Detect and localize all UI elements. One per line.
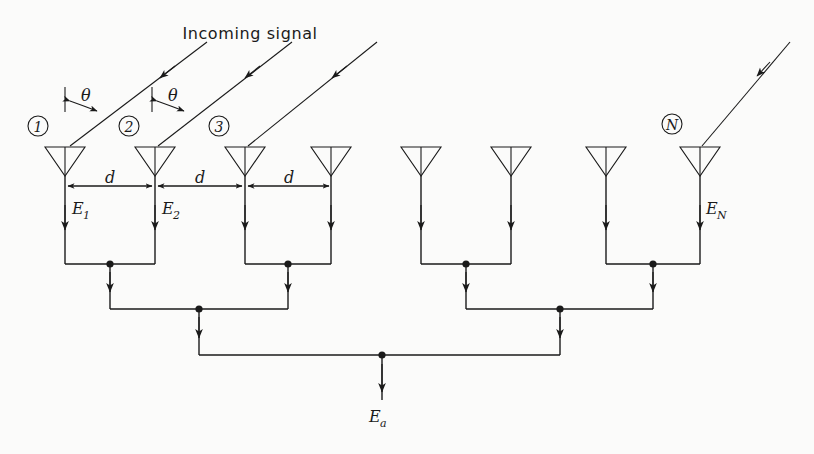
antenna-symbol-2 [135, 147, 175, 176]
svg-text:a: a [380, 417, 387, 430]
incoming-ray-2 [158, 42, 292, 146]
element-index-label-2: 2 [124, 119, 134, 135]
combiner-level-3 [199, 355, 560, 400]
combiner-level-2 [110, 309, 653, 355]
antenna-symbol-7 [586, 147, 626, 176]
incoming-ray-arrowhead-2 [245, 66, 260, 78]
theta-label-1: θ [81, 86, 91, 105]
incoming-ray-arrowhead-3 [332, 66, 347, 78]
svg-text:2: 2 [172, 209, 180, 222]
antenna-symbol-5 [401, 147, 441, 176]
spacing-label-1: d [105, 168, 115, 187]
antenna-symbol-1 [45, 147, 85, 176]
incoming-ray-group [70, 42, 790, 146]
output-field-label: E a [368, 407, 387, 430]
svg-text:1: 1 [83, 209, 90, 222]
diagram-canvas: Incoming signal θ θ 1 2 3 N d d d E 1 E … [28, 24, 790, 430]
junction-dot-l1-a [106, 260, 113, 267]
junction-dot-l1-c [462, 260, 469, 267]
field-label-2: E 2 [161, 199, 180, 222]
feed-line-group [65, 176, 700, 264]
incoming-signal-label: Incoming signal [182, 24, 317, 43]
field-label-n: E N [705, 199, 727, 222]
theta-label-2: θ [168, 86, 178, 105]
element-index-label-3: 3 [215, 119, 224, 135]
antenna-symbol-8 [680, 147, 720, 176]
element-index-label-n: N [665, 117, 679, 133]
junction-dot-l1-b [284, 260, 291, 267]
incoming-ray-n [702, 42, 790, 146]
junction-dot-l3 [378, 351, 385, 358]
antenna-symbol-6 [491, 147, 531, 176]
junction-dot-l2-b [556, 305, 563, 312]
element-index-label-1: 1 [34, 119, 43, 135]
junction-dot-l1-d [649, 260, 656, 267]
svg-text:N: N [716, 209, 727, 222]
incoming-ray-3 [248, 42, 377, 146]
level2-drop-arrows [199, 317, 560, 338]
incoming-ray-arrowhead-1 [160, 66, 175, 78]
spacing-label-2: d [195, 168, 205, 187]
spacing-label-3: d [284, 168, 294, 187]
antenna-array-diagram: Incoming signal θ θ 1 2 3 N d d d E 1 E … [0, 0, 814, 454]
antenna-symbol-3 [225, 147, 265, 176]
level1-drop-arrows [110, 272, 653, 292]
antenna-symbol-4 [311, 147, 351, 176]
antenna-symbol-group [45, 147, 720, 176]
level1-junction-dots [106, 260, 656, 267]
field-label-1: E 1 [71, 199, 90, 222]
junction-dot-l2-a [195, 305, 202, 312]
feed-direction-arrows [65, 205, 700, 230]
combiner-level-1 [65, 264, 700, 309]
